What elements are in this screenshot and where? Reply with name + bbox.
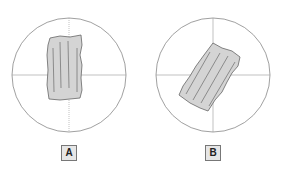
panel-label-b: B [205,145,221,161]
field-of-view-b [156,18,270,132]
field-of-view-a [12,18,126,132]
panel-label-a: A [61,145,77,161]
diagram-canvas [0,0,283,172]
